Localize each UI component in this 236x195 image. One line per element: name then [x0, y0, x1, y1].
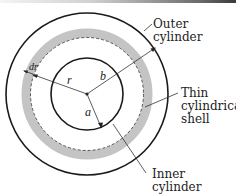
label-shell-line3: shell	[181, 112, 210, 126]
label-b: b	[100, 69, 106, 83]
radius-r-line	[34, 75, 87, 94]
label-outer-line1: Outer	[153, 17, 188, 31]
leader-outer-cylinder	[144, 24, 152, 31]
label-shell-line1: Thin	[181, 86, 209, 100]
label-inner-line2: cylinder	[152, 180, 202, 194]
label-dr: dr	[29, 61, 38, 72]
label-shell-line2: cylindrical	[181, 99, 236, 113]
label-r: r	[67, 73, 72, 87]
label-outer-line2: cylinder	[153, 30, 203, 44]
label-a: a	[85, 105, 91, 119]
label-inner-line1: Inner	[152, 167, 185, 181]
cylinders-diagram: r b a dr Outer cylinder Thin cylindrical…	[0, 0, 236, 195]
